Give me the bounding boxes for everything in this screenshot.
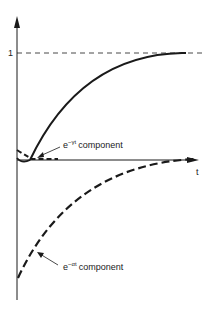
y-tick-label-1: 1 [8,48,13,58]
response-diagram: 1 t e−γtcomponent e−αtcomponent [0,0,211,312]
alpha-pointer-line [40,254,58,265]
alpha-component-curve [18,159,195,278]
alpha-component-label: e−αtcomponent [63,261,124,272]
y-axis-arrow-icon [14,16,20,28]
gamma-pointer-arrow-icon [37,152,44,158]
alpha-pointer-arrow-icon [37,252,44,258]
gamma-component-label: e−γtcomponent [63,139,123,150]
x-axis-label: t [196,167,199,177]
